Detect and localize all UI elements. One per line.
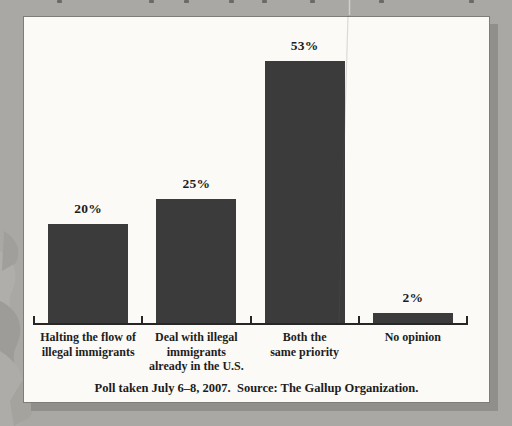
- bar-value-label-1: 20%: [43, 201, 133, 217]
- category-label-2: Deal with illegal immigrants already in …: [135, 330, 257, 374]
- bar-3: [265, 61, 345, 323]
- x-axis-tick-4: [466, 316, 468, 325]
- bar-value-label-4: 2%: [368, 290, 458, 306]
- bar-value-label-2: 25%: [151, 176, 241, 192]
- chart-panel: 20%Halting the flow of illegal immigrant…: [23, 16, 490, 403]
- bar-value-label-3: 53%: [260, 38, 350, 54]
- x-axis-tick-3: [358, 316, 360, 325]
- x-axis-tick-1: [141, 316, 143, 325]
- chart-source-caption: Poll taken July 6–8, 2007. Source: The G…: [24, 381, 489, 396]
- category-label-4: No opinion: [352, 330, 474, 345]
- cropped-text-fragment: [229, 0, 234, 3]
- book-page: { "page": { "background_color": "#a9a8a5…: [0, 0, 512, 426]
- cropped-text-fragment: [184, 0, 189, 3]
- cropped-text-fragment: [469, 0, 474, 3]
- bar-1: [48, 224, 128, 323]
- cropped-text-fragment: [379, 0, 384, 3]
- cropped-text-fragment: [262, 0, 267, 3]
- x-axis-tick-2: [250, 316, 252, 325]
- bar-4: [373, 313, 453, 323]
- category-label-3: Both the same priority: [244, 330, 366, 359]
- cropped-text-fragment: [310, 0, 315, 3]
- bar-2: [156, 199, 236, 323]
- cropped-text-fragment: [57, 0, 62, 3]
- x-axis-tick-0: [33, 316, 35, 325]
- cropped-text-fragment: [149, 0, 154, 3]
- bar-chart: 20%Halting the flow of illegal immigrant…: [24, 17, 489, 402]
- category-label-1: Halting the flow of illegal immigrants: [27, 330, 149, 359]
